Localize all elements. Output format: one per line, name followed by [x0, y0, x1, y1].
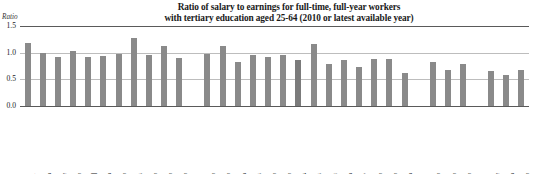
bar-column — [260, 57, 275, 106]
plot-area — [20, 26, 529, 106]
bar-column — [230, 62, 245, 106]
footnote-marker: 4 — [242, 173, 247, 174]
bar-column — [336, 60, 351, 106]
footnote-marker: 3 — [436, 173, 441, 174]
bar — [161, 46, 167, 106]
bar-column — [50, 57, 65, 106]
x-axis-tick-label: OECD average4, 5 — [301, 173, 311, 174]
footnote-marker: 4 — [107, 173, 112, 174]
footnote-marker: 3 — [168, 173, 173, 174]
bar-column — [20, 43, 35, 106]
bar-column — [367, 59, 382, 106]
bar-series — [20, 26, 529, 106]
x-axis-tick-label: Belgium (Fl.)4 — [241, 173, 251, 174]
footnote-marker: 3 — [226, 173, 231, 174]
bar-column — [66, 51, 81, 106]
y-axis-tick-label: 1.0 — [0, 48, 16, 57]
footnote-marker: 3 — [211, 173, 216, 174]
x-axis-tick-label: Austria3 — [210, 173, 220, 174]
footnote-marker: 4, 5 — [138, 173, 143, 174]
footnote-marker: 4 — [408, 173, 413, 174]
x-axis-tick-label: United States3 — [182, 173, 192, 174]
bar — [430, 62, 436, 106]
footnote-marker: 3 — [452, 173, 457, 174]
x-axis-tick-label: Portugal4, 5 — [316, 173, 326, 174]
bar — [55, 57, 61, 106]
bar — [518, 70, 524, 106]
bar-column — [245, 55, 260, 106]
x-axis-tick-label: Netherlands2 — [61, 173, 71, 174]
x-axis-tick-label: Slovenia3 — [392, 173, 402, 174]
footnote-marker: 4, 5 — [317, 173, 322, 174]
footnote-marker: 1 — [31, 173, 36, 174]
bar — [25, 43, 31, 106]
bar-column — [111, 54, 126, 106]
bar — [40, 53, 46, 106]
footnote-marker: 3 — [378, 173, 383, 174]
bar-column — [440, 70, 455, 106]
bar-column — [81, 57, 96, 106]
y-axis-tick-label: 0.5 — [0, 74, 16, 83]
bar-column — [397, 73, 412, 106]
bar-column — [126, 38, 141, 106]
x-axis-tick-label: Slovak Republic4 — [509, 173, 519, 174]
x-axis-tick-label: Estonia3 — [524, 173, 533, 174]
bar — [85, 57, 91, 106]
footnote-marker: 3 — [122, 173, 127, 174]
footnote-marker: 3 — [393, 173, 398, 174]
bar — [341, 60, 347, 106]
bar — [326, 64, 332, 106]
x-axis-tick-label: Denmark4 — [106, 173, 116, 174]
bar — [371, 59, 377, 106]
bar-column — [291, 60, 306, 106]
bar-column — [351, 67, 366, 106]
footnote-marker: 3 — [183, 173, 188, 174]
footnote-marker: 4 — [348, 173, 353, 174]
bar — [131, 38, 137, 106]
footnote-marker: 3 — [467, 173, 472, 174]
bar-column — [96, 56, 111, 106]
x-axis-tick-label: France4 — [347, 173, 357, 174]
bar-column — [514, 70, 529, 106]
bar — [235, 62, 241, 106]
bar-column — [157, 46, 172, 106]
footnote-marker: 4 — [510, 173, 515, 174]
bar — [176, 58, 182, 106]
chart-title-line-2: with tertiary education aged 25-64 (2010… — [56, 13, 522, 24]
x-axis-tick-label: Luxembourg1 — [30, 173, 40, 174]
y-axis-tick-label: 0.0 — [0, 101, 16, 110]
x-axis-tick-label: Israel3 — [435, 173, 445, 174]
x-axis-tick-label: Iceland4 — [407, 173, 417, 174]
footnote-marker: 3 — [525, 173, 530, 174]
bar-column — [276, 55, 291, 106]
footnote-marker: 3 — [77, 173, 82, 174]
x-axis-tick-label: Australia3 — [152, 173, 162, 174]
bar-column — [200, 54, 215, 106]
y-axis-unit-label: Ratio — [2, 13, 18, 21]
footnote-marker: 6 — [333, 173, 338, 174]
bar-column — [483, 71, 498, 106]
x-axis-tick-label: Spain4, 5 — [137, 173, 147, 174]
footnote-marker: 4, 5 — [257, 173, 262, 174]
bar — [460, 64, 466, 106]
x-axis-tick-label: Germany4 — [46, 173, 56, 174]
bar-column — [382, 59, 397, 106]
bar — [265, 57, 271, 106]
bar — [280, 55, 286, 106]
bar-column — [215, 46, 230, 106]
bar-column — [425, 62, 440, 106]
bar — [445, 70, 451, 106]
bar — [295, 60, 301, 106]
bar — [146, 55, 152, 106]
chart-title-line-1: Ratio of salary to earnings for full-tim… — [56, 2, 522, 13]
x-axis-tick-label: Norway6 — [332, 173, 342, 174]
x-axis-tick-label: Canada3 — [76, 173, 86, 174]
x-axis-tick-label: Korea3 — [167, 173, 177, 174]
footnote-marker: 2 — [495, 173, 500, 174]
bar — [503, 75, 509, 106]
footnote-marker: 2 — [62, 173, 67, 174]
y-axis-tick-label: 1.5 — [0, 21, 16, 30]
bar-column — [499, 75, 514, 106]
bar — [356, 67, 362, 106]
x-axis-tick-label: Hungary2 — [494, 173, 504, 174]
